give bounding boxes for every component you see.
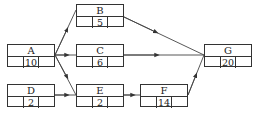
node-f-label: F bbox=[141, 85, 187, 97]
node-d-left bbox=[8, 97, 23, 108]
node-c: C 6 bbox=[76, 44, 124, 67]
node-f-right bbox=[171, 97, 187, 108]
node-c-right bbox=[107, 57, 123, 68]
node-a-label: A bbox=[8, 45, 54, 57]
node-f-duration: 14 bbox=[156, 97, 172, 108]
node-b-left bbox=[77, 17, 92, 28]
node-f: F 14 bbox=[140, 84, 188, 107]
node-c-duration: 6 bbox=[92, 57, 108, 68]
node-c-label: C bbox=[77, 45, 123, 57]
node-e: E 2 bbox=[76, 84, 124, 107]
node-c-left bbox=[77, 57, 92, 68]
node-b-duration: 5 bbox=[92, 17, 108, 28]
node-f-left bbox=[141, 97, 156, 108]
node-a: A 10 bbox=[7, 44, 55, 67]
node-e-right bbox=[107, 97, 123, 108]
node-b-label: B bbox=[77, 5, 123, 17]
node-b-right bbox=[107, 17, 123, 28]
node-g-right bbox=[235, 57, 251, 68]
node-a-right bbox=[38, 57, 54, 68]
node-e-duration: 2 bbox=[92, 97, 108, 108]
node-g-label: G bbox=[205, 45, 251, 57]
node-g-left bbox=[205, 57, 220, 68]
node-b: B 5 bbox=[76, 4, 124, 27]
node-e-left bbox=[77, 97, 92, 108]
node-d-right bbox=[38, 97, 54, 108]
node-g-duration: 20 bbox=[220, 57, 236, 68]
node-e-label: E bbox=[77, 85, 123, 97]
node-d: D 2 bbox=[7, 84, 55, 107]
node-a-left bbox=[8, 57, 23, 68]
node-d-duration: 2 bbox=[23, 97, 39, 108]
node-g: G 20 bbox=[204, 44, 252, 67]
node-a-duration: 10 bbox=[23, 57, 39, 68]
node-d-label: D bbox=[8, 85, 54, 97]
